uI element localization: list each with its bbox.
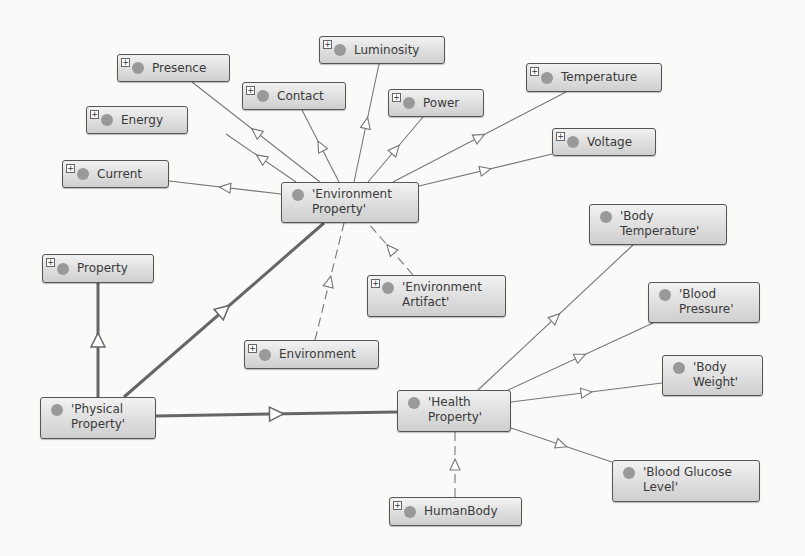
expand-plus-icon[interactable]: + <box>323 40 332 49</box>
class-node-blood-glucose[interactable]: 'Blood Glucose Level' <box>612 460 760 502</box>
arrowhead-icon <box>360 118 370 130</box>
node-label: Luminosity <box>354 43 419 58</box>
node-label: 'Physical Property' <box>71 402 125 432</box>
class-dot-icon <box>334 44 346 56</box>
node-label: Contact <box>277 89 324 104</box>
arrowhead-icon <box>256 155 268 165</box>
node-label: 'Environment Artifact' <box>402 280 482 310</box>
class-dot-icon <box>541 72 553 84</box>
node-label: Energy <box>121 113 163 128</box>
class-node-health-property[interactable]: 'Health Property' <box>397 390 511 432</box>
class-dot-icon <box>623 467 635 479</box>
expand-plus-icon[interactable]: + <box>530 67 539 76</box>
class-node-contact[interactable]: +Contact <box>242 82 346 110</box>
edge-env_property-to-energy <box>226 134 296 182</box>
class-dot-icon <box>257 90 269 102</box>
class-dot-icon <box>132 62 144 74</box>
node-label: 'Environment Property' <box>312 187 392 217</box>
node-label: 'Body Temperature' <box>620 209 699 239</box>
node-label: Current <box>97 167 142 182</box>
expand-plus-icon[interactable]: + <box>46 258 55 267</box>
class-dot-icon <box>659 289 671 301</box>
arrowhead-icon <box>580 388 592 398</box>
edge-env_property-to-voltage <box>419 154 552 186</box>
edge-humanbody-to-health_property <box>450 432 460 497</box>
arrowhead-icon <box>573 354 585 363</box>
arrowhead-icon <box>555 439 567 448</box>
class-dot-icon <box>673 362 685 374</box>
arrowhead-icon <box>450 459 460 470</box>
expand-plus-icon[interactable]: + <box>393 501 402 510</box>
class-node-blood-pressure[interactable]: 'Blood Pressure' <box>648 282 760 323</box>
node-label: Presence <box>152 61 206 76</box>
class-dot-icon <box>408 397 420 409</box>
class-node-luminosity[interactable]: +Luminosity <box>319 36 445 64</box>
edge-physical_property-to-env_property <box>124 223 324 397</box>
class-dot-icon <box>51 404 63 416</box>
expand-plus-icon[interactable]: + <box>248 344 257 353</box>
class-node-presence[interactable]: +Presence <box>117 54 230 82</box>
arrowhead-icon <box>318 141 327 153</box>
class-dot-icon <box>600 211 612 223</box>
node-label: HumanBody <box>424 504 498 519</box>
expand-plus-icon[interactable]: + <box>556 132 565 141</box>
edge-env_property-to-contact <box>302 110 339 182</box>
node-label: Power <box>423 96 459 111</box>
node-label: Property <box>77 261 128 276</box>
class-node-body-temperature[interactable]: 'Body Temperature' <box>589 204 727 245</box>
class-dot-icon <box>259 349 271 361</box>
class-node-property[interactable]: +Property <box>42 254 154 283</box>
edge-env_artifact-to-env_property <box>368 223 413 275</box>
node-label: 'Health Property' <box>428 395 482 425</box>
class-dot-icon <box>292 189 304 201</box>
expand-plus-icon[interactable]: + <box>371 279 380 288</box>
arrowhead-icon <box>387 245 398 257</box>
node-label: Voltage <box>587 135 632 150</box>
class-node-env-property[interactable]: 'Environment Property' <box>281 182 419 223</box>
expand-plus-icon[interactable]: + <box>66 164 75 173</box>
arrowhead-icon <box>479 166 491 176</box>
class-node-physical-property[interactable]: 'Physical Property' <box>40 397 156 439</box>
node-label: 'Blood Glucose Level' <box>643 465 732 495</box>
arrowhead-icon <box>323 276 333 288</box>
class-node-current[interactable]: +Current <box>62 160 169 188</box>
edge-physical_property-to-health_property <box>156 407 397 421</box>
class-node-env-artifact[interactable]: +'Environment Artifact' <box>367 275 506 317</box>
class-dot-icon <box>382 282 394 294</box>
class-dot-icon <box>57 263 69 275</box>
node-label: 'Body Weight' <box>693 360 738 390</box>
class-dot-icon <box>404 506 416 518</box>
arrowhead-icon <box>252 129 264 140</box>
arrowhead-icon <box>388 145 399 157</box>
arrowhead-icon <box>220 183 232 193</box>
class-node-environment[interactable]: +Environment <box>244 340 379 369</box>
class-node-voltage[interactable]: +Voltage <box>552 128 656 156</box>
edge-health_property-to-blood_pressure <box>508 323 653 390</box>
expand-plus-icon[interactable]: + <box>392 93 401 102</box>
edge-environment-to-env_property <box>315 223 344 340</box>
edge-physical_property-to-property <box>91 283 105 397</box>
arrowhead-icon <box>91 333 105 347</box>
class-node-power[interactable]: +Power <box>388 89 484 117</box>
expand-plus-icon[interactable]: + <box>246 86 255 95</box>
edge-health_property-to-blood_glucose <box>511 428 612 462</box>
class-node-energy[interactable]: +Energy <box>86 106 188 134</box>
edge-health_property-to-body_weight <box>511 383 662 402</box>
edge-env_property-to-power <box>368 117 423 182</box>
edge-env_property-to-current <box>169 181 281 194</box>
arrowhead-icon <box>472 134 484 144</box>
class-dot-icon <box>403 97 415 109</box>
class-node-body-weight[interactable]: 'Body Weight' <box>662 355 763 396</box>
node-label: Environment <box>279 347 356 362</box>
expand-plus-icon[interactable]: + <box>90 110 99 119</box>
arrowhead-icon <box>269 407 283 421</box>
node-label: Temperature <box>561 70 637 85</box>
node-label: 'Blood Pressure' <box>679 287 734 317</box>
edge-env_property-to-luminosity <box>354 64 379 182</box>
class-dot-icon <box>77 168 89 180</box>
expand-plus-icon[interactable]: + <box>121 58 130 67</box>
class-node-temperature[interactable]: +Temperature <box>526 63 662 92</box>
class-node-humanbody[interactable]: +HumanBody <box>389 497 522 526</box>
class-dot-icon <box>101 114 113 126</box>
class-dot-icon <box>567 136 579 148</box>
